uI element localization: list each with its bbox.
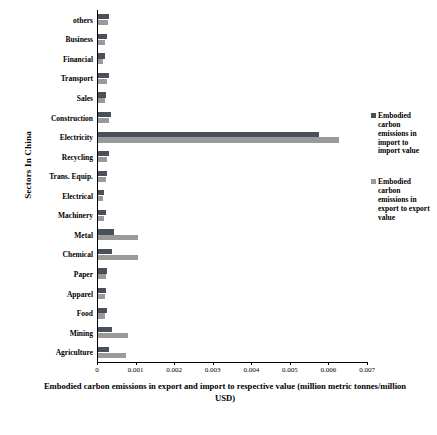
bars-container	[97, 264, 367, 284]
bar-group: Food	[97, 303, 367, 323]
bars-container	[97, 284, 367, 304]
bar-import	[97, 327, 112, 332]
bar-import	[97, 53, 105, 58]
x-axis-tick-label: 0.006	[321, 366, 337, 374]
bars-container	[97, 225, 367, 245]
bar-group: Mining	[97, 323, 367, 343]
y-axis-tick-label: Business	[65, 35, 93, 44]
bar-import	[97, 268, 107, 273]
bar-export	[97, 333, 128, 338]
bar-export	[97, 157, 107, 162]
bar-import	[97, 132, 319, 137]
x-axis-tick	[251, 362, 252, 365]
x-axis-tick-label: 0.005	[282, 366, 298, 374]
x-axis-tick-label: 0.002	[166, 366, 182, 374]
x-axis-tick	[367, 362, 368, 365]
bar-import	[97, 73, 109, 78]
bar-import	[97, 308, 107, 313]
plot-area: othersBusinessFinancialTransportSalesCon…	[97, 10, 367, 362]
y-axis-title: Sectors In China	[23, 75, 33, 255]
bar-group: others	[97, 10, 367, 30]
bar-import	[97, 288, 106, 293]
bar-export	[97, 137, 339, 142]
bar-group: Metal	[97, 225, 367, 245]
bar-group: Transport	[97, 69, 367, 89]
y-axis-tick-label: Agriculture	[56, 348, 93, 357]
bar-import	[97, 249, 112, 254]
y-axis-tick-label: Metal	[74, 230, 93, 239]
legend-swatch-icon	[371, 179, 376, 184]
y-axis-tick-label: Electricity	[60, 133, 93, 142]
bar-import	[97, 171, 107, 176]
y-axis-tick-label: Construction	[51, 113, 93, 122]
bar-group: Construction	[97, 108, 367, 128]
bar-group: Agriculture	[97, 342, 367, 362]
bars-container	[97, 49, 367, 69]
bar-group: Paper	[97, 264, 367, 284]
bars-container	[97, 245, 367, 265]
x-axis-line	[97, 362, 367, 363]
x-axis-tick-label: 0.007	[359, 366, 375, 374]
bars-container	[97, 342, 367, 362]
y-axis-tick-label: Chemical	[63, 250, 93, 259]
x-axis-tick	[213, 362, 214, 365]
bar-import	[97, 190, 104, 195]
y-axis-tick-label: Financial	[63, 54, 93, 63]
y-axis-tick-label: Sales	[77, 93, 93, 102]
bar-import	[97, 14, 109, 19]
x-axis-tick	[328, 362, 329, 365]
bar-export	[97, 216, 104, 221]
bar-group: Business	[97, 30, 367, 50]
bar-group: Machinery	[97, 206, 367, 226]
bars-container	[97, 147, 367, 167]
legend-item: Embodied carbon emissions in export to e…	[371, 178, 437, 222]
x-axis-tick-label: 0.003	[205, 366, 221, 374]
bar-export	[97, 98, 105, 103]
bar-export	[97, 255, 138, 260]
bar-export	[97, 235, 138, 240]
x-axis-tick-label: 0	[95, 366, 99, 374]
bar-export	[97, 294, 105, 299]
y-axis-tick-label: Apparel	[67, 289, 93, 298]
x-axis-tick	[136, 362, 137, 365]
x-axis-tick	[290, 362, 291, 365]
bar-import	[97, 34, 107, 39]
x-axis-tick-label: 0.001	[128, 366, 144, 374]
bar-group: Apparel	[97, 284, 367, 304]
y-axis-line	[97, 10, 98, 362]
bar-export	[97, 274, 106, 279]
bars-container	[97, 108, 367, 128]
bar-import	[97, 92, 106, 97]
chart-legend: Embodied carbon emissions in import to i…	[371, 112, 437, 244]
bars-container	[97, 30, 367, 50]
bar-export	[97, 177, 106, 182]
chart-canvas: Sectors In China othersBusinessFinancial…	[0, 0, 437, 435]
bar-import	[97, 151, 109, 156]
bar-import	[97, 112, 111, 117]
y-axis-tick-label: Electrical	[62, 191, 93, 200]
bars-container	[97, 303, 367, 323]
bar-group: Financial	[97, 49, 367, 69]
bar-export	[97, 118, 109, 123]
bar-export	[97, 353, 126, 358]
legend-label: Embodied carbon emissions in import to i…	[378, 112, 432, 156]
bar-group: Electricity	[97, 127, 367, 147]
bar-import	[97, 210, 106, 215]
y-axis-tick-label: Recycling	[62, 152, 93, 161]
bar-import	[97, 347, 109, 352]
bar-export	[97, 40, 105, 45]
bar-group: Sales	[97, 88, 367, 108]
bars-container	[97, 206, 367, 226]
bars-container	[97, 10, 367, 30]
legend-swatch-icon	[371, 113, 376, 118]
bar-import	[97, 229, 114, 234]
bars-container	[97, 69, 367, 89]
y-axis-tick-label: Paper	[74, 269, 93, 278]
y-axis-tick-label: Mining	[70, 328, 93, 337]
bar-group: Chemical	[97, 245, 367, 265]
x-axis-tick-label: 0.004	[243, 366, 259, 374]
y-axis-tick-label: Transport	[61, 74, 93, 83]
bar-export	[97, 20, 108, 25]
bars-container	[97, 127, 367, 147]
y-axis-tick-label: Trans. Equip.	[49, 172, 93, 181]
